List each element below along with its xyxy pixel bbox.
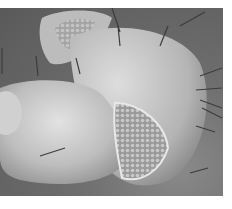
micrograph [0, 8, 223, 196]
micrograph-art [0, 8, 223, 196]
